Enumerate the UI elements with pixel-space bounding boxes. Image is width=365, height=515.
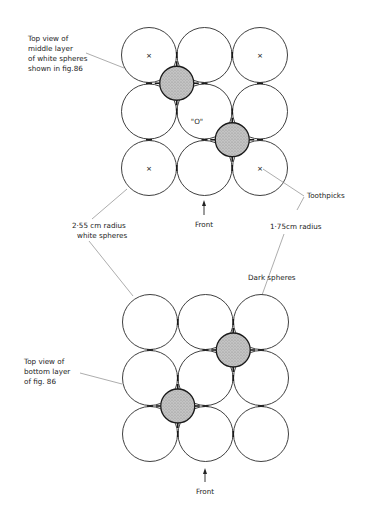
dark-sphere bbox=[215, 123, 249, 157]
toothpicks-leader-down bbox=[297, 197, 304, 210]
middle-layer-top-view: ×××× "O" Front Top view of middle layer … bbox=[27, 28, 288, 230]
bottom-white-spheres bbox=[123, 295, 289, 462]
bottom-layer-leader bbox=[80, 373, 122, 384]
bottom-layer-title-line: Top view of bbox=[23, 357, 65, 366]
cross-mark-icon: × bbox=[146, 164, 152, 173]
cross-mark-icon: × bbox=[146, 51, 152, 60]
center-o-label: "O" bbox=[191, 117, 203, 126]
dark-spheres-label: Dark spheres bbox=[248, 273, 296, 282]
dark-sphere bbox=[161, 389, 195, 423]
front-label-bottom: Front bbox=[196, 487, 214, 496]
sphere-packing-diagram: ×××× "O" Front Top view of middle layer … bbox=[0, 0, 365, 515]
white-sphere bbox=[234, 407, 289, 462]
white-spheres-label-line: white spheres bbox=[77, 231, 127, 240]
bottom-layer-title: Top view of bottom layer of fig. 86 bbox=[23, 357, 73, 386]
dark-sphere bbox=[160, 66, 194, 100]
middle-layer-title-line: Top view of bbox=[27, 34, 69, 43]
bottom-layer-title-line: bottom layer bbox=[24, 367, 70, 376]
toothpicks-label: Toothpicks bbox=[306, 191, 345, 200]
white-spheres-label-line: 2·55 cm radius bbox=[72, 221, 126, 230]
front-arrow-icon bbox=[203, 468, 207, 474]
white-spheres-label: 2·55 cm radius white spheres bbox=[72, 221, 128, 240]
dark-sphere bbox=[216, 333, 250, 367]
middle-layer-title-line: middle layer bbox=[28, 44, 73, 53]
white-spheres-leader-top bbox=[92, 189, 127, 219]
middle-layer-leader bbox=[86, 53, 124, 68]
white-sphere bbox=[123, 295, 178, 350]
cross-mark-icon: × bbox=[257, 164, 263, 173]
cross-mark-icon: × bbox=[257, 51, 263, 60]
dark-radius-label: 1·75cm radius bbox=[270, 222, 322, 231]
bottom-layer-top-view: Front Top view of bottom layer of fig. 8… bbox=[23, 295, 289, 497]
front-label-top: Front bbox=[195, 220, 213, 229]
middle-layer-title-line: of white spheres bbox=[28, 54, 88, 63]
middle-layer-title: Top view of middle layer of white sphere… bbox=[27, 34, 90, 73]
white-spheres-leader-bottom bbox=[89, 241, 133, 296]
front-arrow-icon bbox=[202, 200, 206, 206]
bottom-layer-title-line: of fig. 86 bbox=[24, 377, 56, 386]
middle-layer-title-line: shown in fig.86 bbox=[28, 64, 83, 73]
